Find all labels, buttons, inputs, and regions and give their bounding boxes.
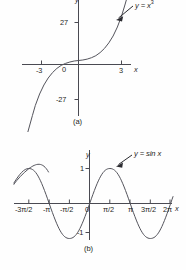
- panel-b-xtick-label-negpi2: -π/2: [60, 206, 73, 213]
- panel-a-ytick-label-27: 27: [60, 19, 68, 26]
- panel-b-y-axis-label: y: [86, 151, 90, 158]
- panel-b-sine-plot: y x -3π/2 -π -π/2 0 π/2 π 3π/2 2π 1 -1 y…: [0, 132, 186, 270]
- panel-b-curve-label: y = sin x: [134, 150, 161, 158]
- panel-a-y-axis-label: y: [75, 0, 79, 3]
- panel-a-ytick-label-neg27: -27: [56, 96, 66, 103]
- panel-b-xtick-label-3pi2: 3π/2: [141, 206, 156, 213]
- panel-b-x-axis-label: x: [175, 205, 179, 212]
- panel-b-xtick-label-pi2: π/2: [103, 206, 114, 213]
- panel-a-x-axis-label: x: [134, 66, 138, 73]
- panel-a-cubic-plot: y x -3 3 0 27 -27 y = x3 (a): [0, 0, 186, 132]
- panel-a-curve-label-exponent: 3: [151, 0, 154, 5]
- panel-a-xtick-label-neg3: -3: [36, 67, 42, 74]
- panel-a-xtick-label-pos3: 3: [119, 67, 123, 74]
- panel-a-curve-label: y = x3: [135, 2, 154, 10]
- figure-container: y x -3 3 0 27 -27 y = x3 (a): [0, 0, 186, 270]
- panel-b-xtick-label-negpi: -π: [43, 206, 50, 213]
- panel-b-caption: (b): [84, 245, 93, 253]
- panel-b-xtick-label-2pi: 2π: [163, 206, 172, 213]
- panel-b-annotation-leader: [119, 155, 133, 165]
- panel-a-curve-label-text: y = x: [135, 1, 151, 10]
- panel-a-curve-cubic: [27, 0, 127, 132]
- panel-a-caption: (a): [73, 118, 82, 126]
- panel-b-curve-sine: [14, 164, 49, 184]
- panel-a-origin-label: 0: [62, 66, 66, 73]
- panel-b-xtick-label-pi: π: [128, 206, 133, 213]
- panel-b-origin-label: 0: [85, 206, 89, 213]
- panel-a-annotation-leader: [119, 6, 134, 18]
- panel-b-xtick-label-neg3pi2: -3π/2: [15, 206, 32, 213]
- panel-a-svg: [0, 0, 186, 132]
- panel-b-ytick-label-neg1: -1: [77, 229, 83, 236]
- panel-b-ytick-label-1: 1: [80, 165, 84, 172]
